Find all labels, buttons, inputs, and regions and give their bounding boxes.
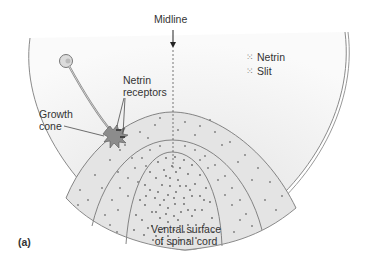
netrin-dot-icon: ⁙ <box>246 51 253 63</box>
legend-slit-label: Slit <box>257 65 272 77</box>
ventral-surface-label-line2: of spinal cord <box>134 235 238 247</box>
slit-dot-icon: ⁙ <box>246 65 253 77</box>
growth-cone-label-line1: Growth <box>39 108 73 120</box>
netrin-receptors-label-line2: receptors <box>123 86 167 98</box>
legend-slit: ⁙ Slit <box>246 65 272 77</box>
legend-netrin-label: Netrin <box>257 51 285 63</box>
legend-netrin: ⁙ Netrin <box>246 51 285 63</box>
netrin-receptors-label-line1: Netrin <box>123 74 151 86</box>
ventral-surface-label-line1: Ventral surface <box>134 223 238 235</box>
panel-label: (a) <box>18 236 31 248</box>
midline-label: Midline <box>154 13 187 25</box>
growth-cone-label-line2: cone <box>39 120 62 132</box>
